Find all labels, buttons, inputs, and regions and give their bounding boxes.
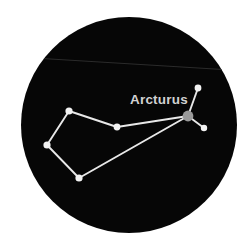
star-chart-canvas: Arcturus — [0, 0, 252, 252]
arcturus-label: Arcturus — [130, 92, 188, 107]
star-chart: Arcturus — [0, 0, 252, 252]
star-marker-izar — [195, 85, 202, 92]
star-marker-muphrid — [201, 125, 207, 131]
star-marker-arcturus — [183, 111, 194, 122]
star-marker-asellus — [43, 141, 50, 148]
star-marker-seginus — [114, 124, 121, 131]
star-marker-nekkar — [65, 107, 72, 114]
star-labels: Arcturus — [130, 92, 188, 107]
star-marker-alkalurops — [75, 174, 82, 181]
